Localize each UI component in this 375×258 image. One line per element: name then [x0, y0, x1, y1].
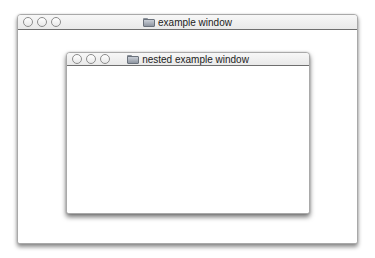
- folder-icon: [143, 18, 155, 27]
- outer-window-title-text: example window: [158, 17, 232, 28]
- outer-window-titlebar[interactable]: example window: [18, 15, 357, 30]
- folder-icon: [127, 55, 139, 64]
- nested-window-titlebar[interactable]: nested example window: [67, 53, 309, 66]
- nested-window: nested example window: [66, 52, 310, 214]
- nested-window-title-text: nested example window: [142, 54, 249, 65]
- nested-window-title: nested example window: [67, 53, 309, 65]
- nested-window-content: [67, 66, 309, 213]
- outer-window-title: example window: [18, 15, 357, 29]
